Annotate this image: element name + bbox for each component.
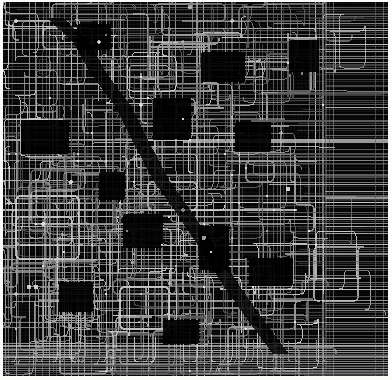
routing-trace-canvas bbox=[3, 2, 388, 376]
circuit-substrate-plate bbox=[3, 2, 388, 376]
paper-margin-right bbox=[388, 0, 392, 380]
figure-root bbox=[0, 0, 392, 380]
paper-margin-bottom bbox=[0, 376, 392, 380]
